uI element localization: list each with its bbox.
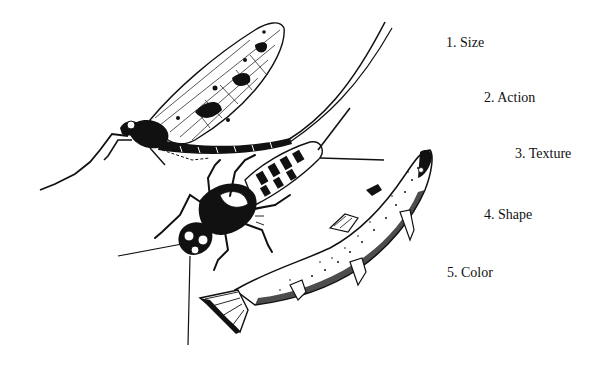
label-color: 5. Color xyxy=(447,266,493,280)
label-action: 2. Action xyxy=(484,91,535,105)
illustration xyxy=(0,0,611,368)
label-size: 1. Size xyxy=(446,36,484,50)
label-texture: 3. Texture xyxy=(515,147,571,161)
label-shape: 4. Shape xyxy=(484,208,532,222)
figure-canvas: 1. Size 2. Action 3. Texture 4. Shape 5.… xyxy=(0,0,611,368)
